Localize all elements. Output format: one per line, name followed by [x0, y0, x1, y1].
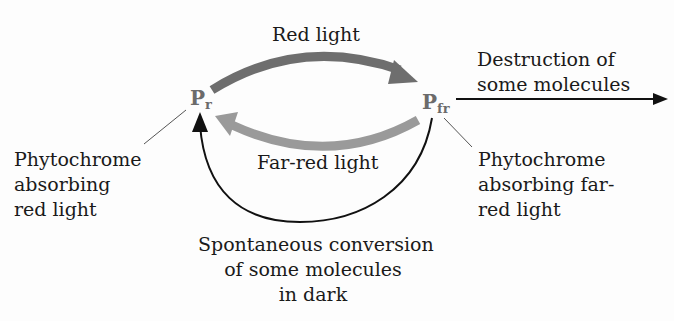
red-light-label: Red light: [272, 22, 360, 47]
pfr-leader-line: [444, 118, 472, 147]
far-red-light-label: Far-red light: [257, 150, 378, 175]
pr-description: Phytochrome absorbing red light: [14, 147, 142, 222]
phytochrome-diagram: Pr Pfr Red light Far-red light Destructi…: [0, 0, 674, 321]
far-red-light-arrow: [215, 112, 418, 146]
dark-conversion-label: Spontaneous conversion of some molecules…: [198, 232, 428, 307]
pfr-node: Pfr: [422, 90, 450, 116]
pr-leader-line: [144, 110, 186, 144]
pr-node: Pr: [190, 86, 212, 112]
pfr-description: Phytochrome absorbing far- red light: [478, 147, 614, 222]
destruction-label: Destruction of some molecules: [477, 47, 630, 97]
red-light-arrow: [212, 56, 418, 90]
